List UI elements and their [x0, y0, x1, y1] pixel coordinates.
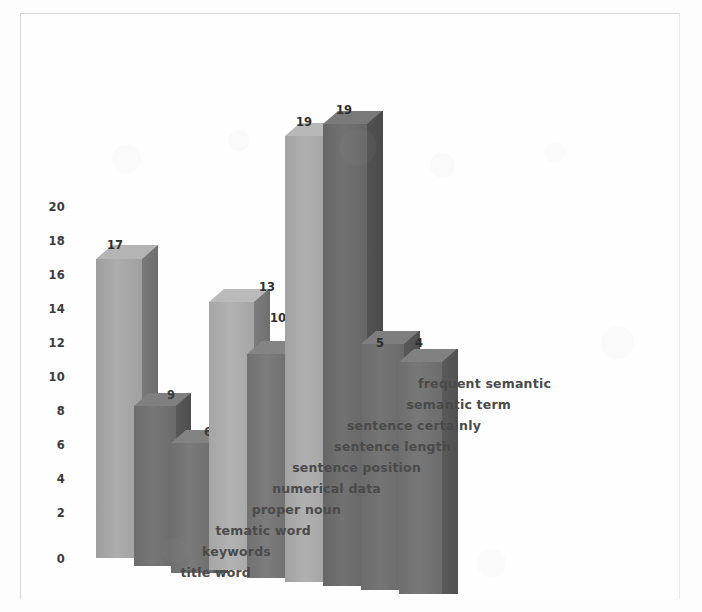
cat-label-tematic-word: tematic word — [171, 523, 311, 538]
cat-label-title-word: title word — [121, 565, 251, 580]
y-tick-0: 0 — [39, 552, 65, 566]
y-tick-2: 2 — [39, 506, 65, 520]
bar-value-semantic-term: 4 — [415, 336, 423, 350]
y-tick-14: 14 — [39, 302, 65, 316]
bar-value-proper-noun: 13 — [259, 280, 275, 294]
cat-label-numerical-data: numerical data — [226, 481, 381, 496]
cat-label-sentence-position: sentence position — [246, 460, 421, 475]
chart-frame: 20 18 16 14 12 10 8 6 4 2 0 17 9 — [20, 13, 680, 599]
cat-label-frequent-semantic: frequent semantic — [351, 376, 551, 391]
y-tick-4: 4 — [39, 472, 65, 486]
bar-face — [134, 406, 176, 566]
y-tick-6: 6 — [39, 438, 65, 452]
cat-label-proper-noun: proper noun — [201, 502, 341, 517]
bar-value-keywords: 9 — [167, 388, 175, 402]
y-tick-10: 10 — [39, 370, 65, 384]
bar-value-sentence-length: 19 — [336, 103, 352, 117]
bar-value-numerical-data: 10 — [270, 311, 286, 325]
bar-value-title-word: 17 — [107, 238, 123, 252]
y-tick-16: 16 — [39, 268, 65, 282]
cat-label-semantic-term: semantic term — [331, 397, 511, 412]
cat-label-keywords: keywords — [141, 544, 271, 559]
cat-label-sentence-certainly: sentence certainly — [301, 418, 481, 433]
bar-value-sentence-position: 19 — [296, 115, 312, 129]
bar-keywords[interactable] — [134, 406, 176, 566]
bar-value-sentence-certainly: 5 — [376, 336, 384, 350]
y-tick-18: 18 — [39, 234, 65, 248]
cat-label-sentence-length: sentence length — [276, 439, 451, 454]
y-tick-20: 20 — [39, 200, 65, 214]
y-tick-8: 8 — [39, 404, 65, 418]
y-tick-12: 12 — [39, 336, 65, 350]
